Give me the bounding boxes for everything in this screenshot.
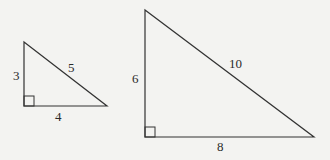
small-triangle: 3 5 4 [13,42,107,124]
large-triangle: 6 10 8 [132,10,314,154]
right-angle-marker [145,127,155,137]
small-hypotenuse-label: 5 [68,60,75,75]
right-angle-marker [24,96,34,106]
large-hypotenuse-label: 10 [229,56,242,71]
small-vertical-leg-label: 3 [13,68,20,83]
large-horizontal-leg-label: 8 [217,139,224,154]
large-vertical-leg-label: 6 [132,71,139,86]
large-triangle-shape [145,10,314,137]
small-triangle-shape [24,42,107,106]
small-horizontal-leg-label: 4 [55,109,62,124]
triangles-diagram: 3 5 4 6 10 8 [0,0,330,160]
